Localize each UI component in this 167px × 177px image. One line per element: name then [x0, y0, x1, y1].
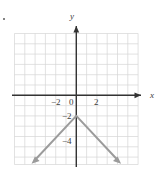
- y-tick-label-neg4: −4: [62, 137, 72, 146]
- coordinate-plane-svg: [0, 0, 167, 177]
- y-axis-label: y: [70, 12, 74, 21]
- y-tick-label-neg2: −2: [62, 112, 72, 121]
- y-axis-line: [73, 26, 79, 167]
- x-tick-label-2: 2: [94, 98, 99, 107]
- x-tick-label-neg2: −2: [51, 98, 61, 107]
- x-axis-label: x: [150, 91, 154, 100]
- graph-figure: −2 0 2 −2 −4 x y: [0, 0, 167, 177]
- origin-label: 0: [69, 98, 74, 107]
